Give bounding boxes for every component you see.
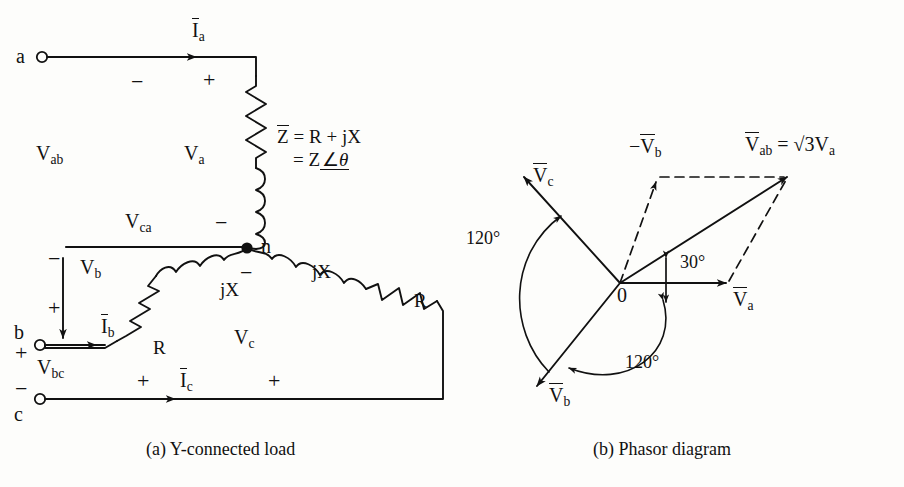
phasor-vb-sub: b xyxy=(563,394,570,409)
phasor-label-vc: Vc xyxy=(533,163,554,188)
angle-120-upper-arc xyxy=(520,216,561,372)
terminal-b-node xyxy=(35,340,45,350)
impedance-rhs: = R + jX xyxy=(294,126,361,147)
caption-a: (a) Y-connected load xyxy=(146,440,295,458)
polarity-plus-c-left: + xyxy=(137,370,149,392)
polarity-minus-ab: − xyxy=(131,71,143,93)
vc-base: V xyxy=(234,326,248,348)
current-ia-base: I xyxy=(192,18,199,40)
phasor-va-sub: a xyxy=(747,298,753,313)
current-ic-sub: c xyxy=(187,379,193,394)
inductor-branch-b xyxy=(156,248,247,276)
vab-resultant-sub: ab xyxy=(759,143,772,158)
terminal-label-b: b xyxy=(14,322,24,342)
vab-resultant-equals: = √3V xyxy=(777,133,829,155)
polarity-plus-bc: + xyxy=(15,342,27,364)
current-ic-base: I xyxy=(180,368,187,390)
polarity-plus-c-right: + xyxy=(268,370,280,392)
resistor-label-b: R xyxy=(153,338,166,357)
vca-sub: ca xyxy=(139,220,151,235)
circuit-diagram xyxy=(35,52,443,404)
phasor-vc-sub: c xyxy=(547,174,553,189)
minus-vb-base: V xyxy=(640,134,654,156)
reactance-label-c: jX xyxy=(312,262,331,281)
angle-symbol: ∠θ xyxy=(320,150,349,170)
voltage-label-vc: Vc xyxy=(234,327,255,350)
impedance-expression-line1: Z= R + jX xyxy=(277,125,361,146)
va-sub: a xyxy=(198,152,204,167)
phasor-label-vab-resultant: Vab= √3Va xyxy=(745,132,835,157)
voltage-label-vca: Vca xyxy=(125,211,152,234)
minus-vb-prefix: − xyxy=(629,135,640,157)
phasor-va-base: V xyxy=(733,287,747,309)
resistor-branch-a xyxy=(246,76,266,168)
current-label-ic: Ic xyxy=(180,368,193,393)
current-label-ib: Ib xyxy=(101,314,114,339)
figure-page: a b c n Ia Ib Ic Vab Vbc Vca Va Vb Vc R … xyxy=(0,0,904,487)
angle-label-120-lower: 120° xyxy=(625,353,659,371)
phasor-origin-label: 0 xyxy=(617,285,627,305)
minus-vb-sub: b xyxy=(655,145,662,160)
vab-base: V xyxy=(36,142,50,164)
phasor-label-va: Va xyxy=(733,287,754,312)
neutral-label-n: n xyxy=(261,236,271,256)
vc-sub: c xyxy=(248,336,254,351)
impedance-z-symbol: Z xyxy=(277,125,289,146)
angle-glyph: ∠ xyxy=(322,149,339,170)
vb-base: V xyxy=(80,256,94,278)
angle-label-30: 30° xyxy=(680,253,705,271)
resistor-branch-b xyxy=(117,276,159,341)
resistor-label-c: R xyxy=(414,291,427,310)
voltage-label-va: Va xyxy=(184,143,205,166)
terminal-a-node xyxy=(37,52,47,62)
impedance-polar-lhs: = Z xyxy=(293,149,320,170)
reactance-label-b: jX xyxy=(220,280,239,299)
phasor-minus-vb xyxy=(620,182,656,283)
phasor-vb-base: V xyxy=(549,383,563,405)
vab-sub: ab xyxy=(50,152,63,167)
wire-line-a xyxy=(47,57,256,76)
terminal-c-node xyxy=(35,394,45,404)
terminal-label-c: c xyxy=(14,404,23,424)
polarity-minus-neutral: − xyxy=(240,262,252,284)
polarity-minus-ca: − xyxy=(215,212,227,234)
polarity-minus-bc: − xyxy=(15,378,27,400)
phasor-label-vb: Vb xyxy=(549,383,570,408)
current-ib-sub: b xyxy=(108,325,115,340)
voltage-label-vb: Vb xyxy=(80,257,101,280)
phasor-label-minus-vb: −Vb xyxy=(629,134,662,159)
vbc-sub: bc xyxy=(51,366,64,381)
voltage-label-vab: Vab xyxy=(36,143,63,166)
current-label-ia: Ia xyxy=(192,18,205,43)
vab-resultant-equals-sub: a xyxy=(829,143,835,158)
polarity-plus-a: + xyxy=(203,69,215,91)
angle-label-120-upper: 120° xyxy=(466,229,500,247)
phasor-vc-base: V xyxy=(533,163,547,185)
current-ia-sub: a xyxy=(199,29,205,44)
polarity-minus-b-top: − xyxy=(48,248,60,270)
impedance-expression-line2: = Z∠θ xyxy=(293,150,349,170)
phasor-vc xyxy=(524,177,620,283)
va-base: V xyxy=(184,142,198,164)
terminal-label-a: a xyxy=(16,46,25,66)
vca-base: V xyxy=(125,210,139,232)
vbc-base: V xyxy=(37,356,51,378)
vb-sub: b xyxy=(94,266,101,281)
vab-resultant-base: V xyxy=(745,132,759,154)
voltage-label-vbc: Vbc xyxy=(37,357,64,380)
theta-glyph: θ xyxy=(339,149,348,170)
current-ib-base: I xyxy=(101,314,108,336)
caption-b: (b) Phasor diagram xyxy=(593,440,731,458)
polarity-plus-b-mid: + xyxy=(48,297,60,319)
